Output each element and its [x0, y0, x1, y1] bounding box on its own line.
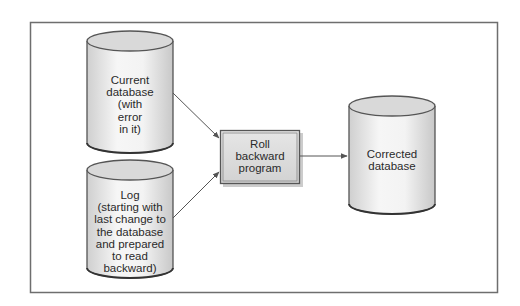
- log-label: Log (starting with last change to the da…: [87, 189, 173, 274]
- current-database-label: Current database (with error in it): [87, 74, 173, 135]
- roll-backward-program-label: Roll backward program: [220, 138, 300, 175]
- corrected-database-label: Corrected database: [349, 148, 435, 172]
